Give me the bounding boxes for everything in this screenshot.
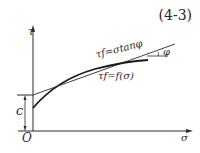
- strength-curve: [33, 60, 148, 108]
- x-axis-label: σ: [181, 133, 188, 143]
- cohesion-label: c: [16, 104, 23, 117]
- angle-arc: [158, 52, 159, 56]
- origin-label: O: [22, 132, 32, 144]
- cohesion-arrow-up: [24, 95, 27, 100]
- friction-angle-label: φ: [163, 47, 170, 57]
- strength-curve-label: τf=f(σ): [98, 71, 134, 81]
- y-axis-label: τ: [28, 26, 34, 37]
